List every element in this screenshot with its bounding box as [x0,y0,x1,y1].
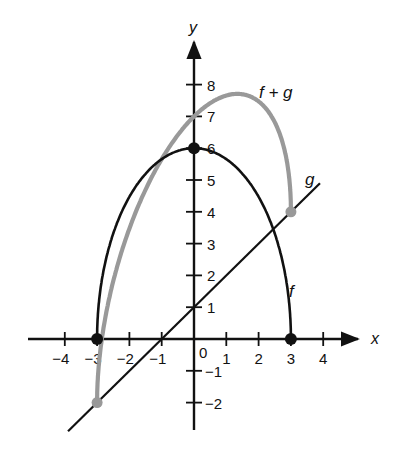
x-tick-label: 2 [254,350,262,367]
x-tick-label: −1 [149,350,166,367]
y-tick-label: −1 [205,363,222,380]
origin-label: 0 [199,344,207,361]
y-tick-label: 8 [207,77,215,94]
y-tick-label: 2 [207,267,215,284]
label-g: g [305,170,315,189]
label-f: f [289,282,296,301]
x-tick-label: 1 [222,350,230,367]
y-axis-label: y [188,19,198,36]
x-tick-label: 4 [319,350,327,367]
y-tick-label: 4 [207,204,215,221]
y-tick-label: 7 [207,108,215,125]
axes: −4−3−2−11234−2−1123456780 [28,42,358,430]
y-tick-label: 3 [207,236,215,253]
point-f [91,333,103,345]
y-tick-label: 6 [207,140,215,157]
point-f-plus-g-endpoint [285,206,296,217]
x-axis-label: x [370,330,380,347]
y-tick-label: 1 [207,299,215,316]
x-tick-label: 3 [287,350,295,367]
point-f-plus-g-endpoint [92,397,103,408]
function-graph: −4−3−2−11234−2−1123456780 x y f + g g f [0,0,397,457]
x-tick-label: −4 [52,350,69,367]
y-tick-label: −2 [205,395,222,412]
labels: x y f + g g f [188,19,380,347]
x-tick-label: −2 [117,350,134,367]
label-f-plus-g: f + g [259,83,293,102]
point-f [188,142,200,154]
point-f [285,333,297,345]
y-tick-label: 5 [207,172,215,189]
